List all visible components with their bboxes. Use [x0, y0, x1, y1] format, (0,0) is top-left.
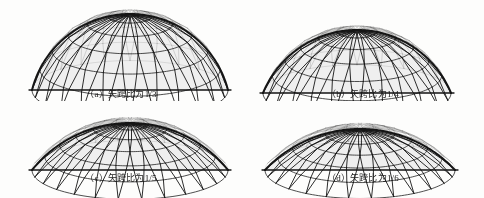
caption-b: （b）矢跨比为1/4	[242, 89, 484, 100]
dome-panel-c: （c）矢跨比为1/5	[0, 101, 242, 198]
figure-page: （a）矢跨比为1/3 （b）矢跨比为1/4 （c）矢跨比为1/5 （d）矢跨比为…	[0, 0, 484, 198]
dome-panel-d: （d）矢跨比为1/6	[242, 101, 484, 198]
dome-panel-a: （a）矢跨比为1/3	[0, 2, 242, 101]
dome-drawing-b	[242, 2, 484, 101]
caption-c: （c）矢跨比为1/5	[0, 173, 242, 184]
caption-d: （d）矢跨比为1/6	[242, 173, 484, 184]
dome-panel-b: （b）矢跨比为1/4	[242, 2, 484, 101]
caption-a: （a）矢跨比为1/3	[0, 89, 242, 100]
dome-drawing-a	[0, 2, 242, 101]
